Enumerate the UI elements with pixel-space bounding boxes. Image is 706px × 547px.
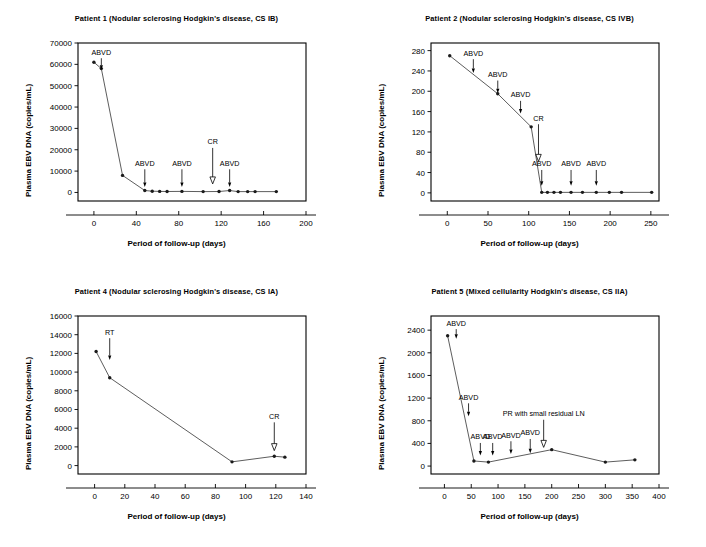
data-point xyxy=(604,460,607,463)
annotation-arrowhead-filled xyxy=(569,181,572,186)
x-tick-label: 150 xyxy=(518,492,532,501)
x-tick-label: 160 xyxy=(257,219,271,228)
y-tick-label: 14000 xyxy=(50,331,73,340)
plot-area-patient-5: 0400800120016002000240005010015020025030… xyxy=(353,273,706,546)
data-point xyxy=(108,376,111,379)
chart-panel-patient-5: Patient 5 (Mixed cellularity Hodgkin's d… xyxy=(353,273,706,546)
data-point xyxy=(230,460,233,463)
data-point xyxy=(595,191,598,194)
x-tick-label: 20 xyxy=(120,492,129,501)
x-tick-label: 120 xyxy=(269,492,283,501)
annotation-label: ABVD xyxy=(520,428,540,437)
chart-panel-patient-1: Patient 1 (Nodular sclerosing Hodgkin's … xyxy=(0,0,353,273)
data-point xyxy=(236,190,239,193)
data-point xyxy=(650,191,653,194)
x-tick-label: 140 xyxy=(299,492,313,501)
y-tick-label: 120 xyxy=(412,128,426,137)
x-tick-label: 40 xyxy=(132,219,141,228)
x-tick-label: 50 xyxy=(467,492,476,501)
annotation-label: PR with small residual LN xyxy=(503,409,585,418)
annotation-label: ABVD xyxy=(135,159,155,168)
x-tick-label: 120 xyxy=(214,219,228,228)
annotation-label: ABVD xyxy=(488,70,508,79)
x-tick-label: 80 xyxy=(174,219,183,228)
data-point xyxy=(559,191,562,194)
x-axis-label-patient-5: Period of follow-up (days) xyxy=(353,512,706,521)
data-point xyxy=(529,125,532,128)
x-tick-label: 250 xyxy=(572,492,586,501)
x-tick-label: 400 xyxy=(652,492,666,501)
annotation-label: RT xyxy=(105,328,115,337)
annotation-label: ABVD xyxy=(561,159,581,168)
annotation-arrowhead-open xyxy=(210,177,216,184)
annotation-arrowhead-filled xyxy=(509,449,512,454)
y-tick-label: 10000 xyxy=(50,368,73,377)
data-series-line xyxy=(94,62,276,191)
annotation-arrowhead-filled xyxy=(479,451,482,456)
y-tick-label: 80 xyxy=(416,148,425,157)
y-tick-label: 2000 xyxy=(407,349,425,358)
data-point xyxy=(633,458,636,461)
x-axis-label-patient-2: Period of follow-up (days) xyxy=(353,239,706,248)
data-point xyxy=(608,191,611,194)
annotation-label: ABVD xyxy=(532,159,552,168)
data-point xyxy=(121,174,124,177)
annotation-label: ABVD xyxy=(501,431,521,440)
data-point xyxy=(273,455,276,458)
annotation-arrowhead-filled xyxy=(472,68,475,73)
x-tick-label: 0 xyxy=(445,219,450,228)
x-axis-label-patient-1: Period of follow-up (days) xyxy=(0,239,353,248)
plot-frame xyxy=(78,316,306,474)
data-point xyxy=(569,191,572,194)
data-point xyxy=(487,460,490,463)
annotation-arrowhead-filled xyxy=(228,183,231,188)
y-tick-label: 240 xyxy=(412,67,426,76)
y-tick-label: 16000 xyxy=(50,312,73,321)
y-tick-label: 0 xyxy=(68,188,73,197)
x-tick-label: 0 xyxy=(92,219,97,228)
annotation-label: ABVD xyxy=(172,159,192,168)
annotation-arrowhead-filled xyxy=(529,449,532,454)
y-tick-label: 60000 xyxy=(50,60,73,69)
figure-panel-grid: Patient 1 (Nodular sclerosing Hodgkin's … xyxy=(0,0,706,547)
y-tick-label: 1200 xyxy=(407,394,425,403)
y-tick-label: 1600 xyxy=(407,371,425,380)
annotation-label: ABVD xyxy=(483,432,503,441)
y-tick-label: 30000 xyxy=(50,124,73,133)
data-point xyxy=(151,189,154,192)
y-tick-label: 2000 xyxy=(54,443,72,452)
x-axis-label-patient-4: Period of follow-up (days) xyxy=(0,512,353,521)
annotation-arrowhead-filled xyxy=(108,355,111,360)
x-tick-label: 40 xyxy=(151,492,160,501)
data-point xyxy=(253,190,256,193)
data-point xyxy=(550,448,553,451)
data-point xyxy=(581,191,584,194)
x-tick-label: 50 xyxy=(484,219,493,228)
annotation-label: ABVD xyxy=(446,319,466,328)
annotation-arrowhead-open xyxy=(272,444,278,451)
x-tick-label: 200 xyxy=(299,219,313,228)
annotation-arrowhead-filled xyxy=(595,181,598,186)
x-tick-label: 200 xyxy=(603,219,617,228)
annotation-arrowhead-filled xyxy=(143,183,146,188)
annotation-label: ABVD xyxy=(459,393,479,402)
y-tick-label: 40 xyxy=(416,169,425,178)
data-point xyxy=(275,190,278,193)
data-point xyxy=(283,455,286,458)
data-point xyxy=(448,54,451,57)
y-tick-label: 40000 xyxy=(50,103,73,112)
data-point xyxy=(143,189,146,192)
x-tick-label: 0 xyxy=(92,492,97,501)
y-tick-label: 8000 xyxy=(54,387,72,396)
annotation-arrowhead-filled xyxy=(467,412,470,417)
data-point xyxy=(228,189,231,192)
y-tick-label: 70000 xyxy=(50,39,73,48)
data-point xyxy=(552,191,555,194)
annotation-label: ABVD xyxy=(92,48,112,57)
y-tick-label: 400 xyxy=(412,439,426,448)
y-tick-label: 4000 xyxy=(54,424,72,433)
x-tick-label: 100 xyxy=(522,219,536,228)
data-point xyxy=(165,190,168,193)
y-tick-label: 50000 xyxy=(50,82,73,91)
y-tick-label: 200 xyxy=(412,87,426,96)
